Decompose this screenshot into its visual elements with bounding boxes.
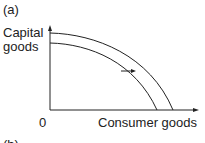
x-axis-arrowhead-icon [193,108,199,112]
x-axis [50,108,199,112]
inner-ppf-curve [50,43,157,110]
y-axis [48,25,52,110]
shift-arrow-icon [121,69,136,73]
y-axis-arrowhead-icon [48,25,52,31]
ppf-diagram [0,0,205,143]
